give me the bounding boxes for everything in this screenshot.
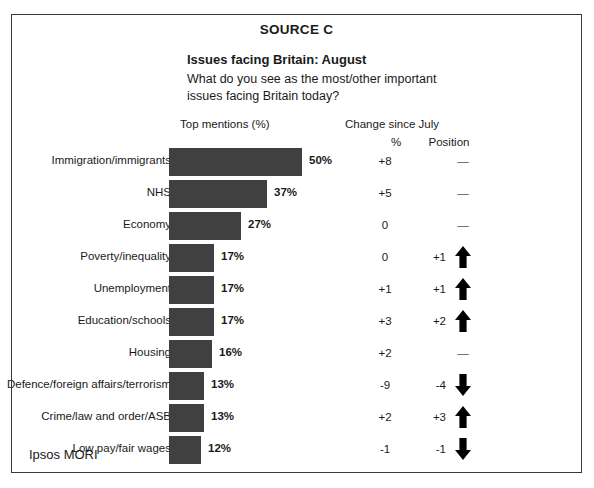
change-percent-value: -1 [370, 443, 400, 455]
position-no-change-dash: — [448, 155, 478, 167]
bar [169, 340, 212, 368]
position-no-change-dash: — [448, 219, 478, 231]
bar-value-label: 50% [309, 154, 332, 166]
chart-row: NHS37%+5— [12, 179, 583, 211]
title-block: Issues facing Britain: August What do yo… [187, 51, 547, 105]
bar-track [169, 180, 267, 208]
chart-question: What do you see as the most/other import… [187, 71, 467, 105]
change-percent-value: +3 [370, 315, 400, 327]
bar-value-label: 17% [221, 314, 244, 326]
bar-value-label: 27% [248, 218, 271, 230]
bar [169, 148, 302, 176]
chart-row: Crime/law and order/ASB13%+2+3 [12, 403, 583, 435]
bar-track [169, 372, 204, 400]
row-category-label: Housing [129, 346, 171, 358]
bar-track [169, 436, 201, 464]
row-category-label: Poverty/inequality [80, 250, 171, 262]
bar [169, 180, 267, 208]
bar [169, 212, 241, 240]
bar [169, 244, 214, 272]
bar-track [169, 404, 204, 432]
change-percent-value: +2 [370, 347, 400, 359]
bar-track [169, 340, 212, 368]
bar-track [169, 212, 241, 240]
arrow-down-icon [453, 437, 473, 463]
change-percent-value: -9 [370, 379, 400, 391]
bar-track [169, 148, 302, 176]
bar [169, 308, 214, 336]
chart-row: Immigration/immigrants50%+8— [12, 147, 583, 179]
bar-value-label: 13% [211, 378, 234, 390]
arrow-up-icon [453, 245, 473, 271]
chart-row: Housing16%+2— [12, 339, 583, 371]
change-position-value: -4 [416, 379, 446, 391]
column-header-change-since-july: Change since July [345, 118, 439, 130]
row-category-label: Crime/law and order/ASB [41, 410, 171, 422]
bar-value-label: 37% [274, 186, 297, 198]
arrow-down-icon [453, 373, 473, 399]
chart-row: Unemployment17%+1+1 [12, 275, 583, 307]
arrow-up-icon [453, 277, 473, 303]
change-position-value: +1 [416, 283, 446, 295]
bar-value-label: 17% [221, 282, 244, 294]
bar [169, 404, 204, 432]
bar-track [169, 308, 214, 336]
bar [169, 436, 201, 464]
row-category-label: Education/schools [78, 314, 171, 326]
bar [169, 276, 214, 304]
arrow-up-icon [453, 405, 473, 431]
position-no-change-dash: — [448, 187, 478, 199]
chart-frame: SOURCE C Issues facing Britain: August W… [11, 14, 582, 473]
chart-row: Poverty/inequality17%0+1 [12, 243, 583, 275]
arrow-up-icon [453, 309, 473, 335]
change-percent-value: +1 [370, 283, 400, 295]
row-category-label: Economy [123, 218, 171, 230]
bar-value-label: 17% [221, 250, 244, 262]
change-percent-value: +2 [370, 411, 400, 423]
bar-value-label: 12% [208, 442, 231, 454]
row-category-label: Defence/foreign affairs/terrorism [7, 378, 171, 390]
chart-title: Issues facing Britain: August [187, 51, 547, 68]
chart-row: Low pay/fair wages12%-1-1 [12, 435, 583, 467]
column-header-top-mentions: Top mentions (%) [180, 118, 269, 130]
source-title: SOURCE C [12, 22, 581, 37]
chart-row: Economy27%0— [12, 211, 583, 243]
bar-value-label: 13% [211, 410, 234, 422]
chart-rows: Immigration/immigrants50%+8—NHS37%+5—Eco… [12, 147, 583, 467]
change-percent-value: +8 [370, 155, 400, 167]
position-no-change-dash: — [448, 347, 478, 359]
row-category-label: Unemployment [94, 282, 171, 294]
bar-value-label: 16% [219, 346, 242, 358]
chart-row: Education/schools17%+3+2 [12, 307, 583, 339]
change-percent-value: 0 [370, 251, 400, 263]
change-percent-value: +5 [370, 187, 400, 199]
footer-brand: Ipsos MORI [29, 447, 98, 462]
change-position-value: +1 [416, 251, 446, 263]
row-category-label: NHS [147, 186, 171, 198]
change-position-value: +2 [416, 315, 446, 327]
change-position-value: +3 [416, 411, 446, 423]
bar-track [169, 244, 214, 272]
bar-track [169, 276, 214, 304]
row-category-label: Immigration/immigrants [52, 154, 172, 166]
change-position-value: -1 [416, 443, 446, 455]
chart-row: Defence/foreign affairs/terrorism13%-9-4 [12, 371, 583, 403]
change-percent-value: 0 [370, 219, 400, 231]
bar [169, 372, 204, 400]
